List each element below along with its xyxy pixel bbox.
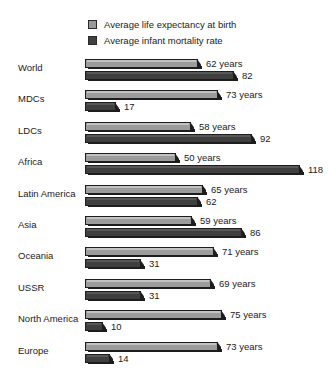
bar-body — [85, 342, 218, 351]
bar-value-label: 62 years — [206, 58, 242, 69]
bar-tip — [109, 354, 113, 364]
bar-tip — [217, 342, 221, 352]
bar-tip — [213, 247, 217, 257]
bar-value-label: 31 — [149, 290, 160, 301]
bar-body — [85, 185, 203, 194]
bar-tip — [115, 102, 119, 112]
chart-row: Africa50 years118 — [0, 153, 328, 181]
legend-label-life-expectancy: Average life expectancy at birth — [104, 19, 236, 30]
bar-value-label: 86 — [250, 227, 261, 238]
bar-value-label: 50 years — [184, 152, 220, 163]
bar-tip — [233, 71, 237, 81]
chart-row: World62 years82 — [0, 59, 328, 87]
chart-row: LDCs58 years92 — [0, 122, 328, 150]
bar-tip — [299, 165, 303, 175]
category-label-ldcs: LDCs — [18, 125, 42, 136]
bar-body — [85, 122, 191, 131]
bar-body — [85, 197, 198, 206]
bar-value-label: 73 years — [226, 341, 262, 352]
bar-tip — [197, 197, 201, 207]
bar-value-label: 17 — [124, 101, 135, 112]
chart-row: Europe73 years14 — [0, 342, 328, 370]
bar-tip — [210, 279, 214, 289]
bar-value-label: 71 years — [222, 246, 258, 257]
bar-body — [85, 279, 211, 288]
category-label-ussr: USSR — [18, 282, 44, 293]
bar-body — [85, 59, 198, 68]
bar-body — [85, 291, 141, 300]
bar-body — [85, 102, 116, 111]
bar-tip — [175, 153, 179, 163]
bar-tip — [140, 291, 144, 301]
legend-item-life-expectancy: Average life expectancy at birth — [88, 18, 236, 31]
legend-label-infant-mortality: Average infant mortality rate — [104, 35, 223, 46]
bar-tip — [217, 90, 221, 100]
bar-tip — [202, 185, 206, 195]
bar-tip — [140, 259, 144, 269]
bar-body — [85, 134, 252, 143]
bar-value-label: 65 years — [211, 184, 247, 195]
bar-tip — [251, 134, 255, 144]
bar-tip — [190, 122, 194, 132]
bar-value-label: 92 — [260, 133, 271, 144]
bar-tip — [197, 59, 201, 69]
category-label-world: World — [18, 62, 43, 73]
bar-body — [85, 247, 214, 256]
bar-body — [85, 259, 141, 268]
bar-value-label: 10 — [111, 321, 122, 332]
chart-legend: Average life expectancy at birth Average… — [88, 18, 236, 50]
bar-value-label: 59 years — [200, 215, 236, 226]
bar-value-label: 82 — [242, 70, 253, 81]
bar-tip — [221, 310, 225, 320]
category-label-asia: Asia — [18, 219, 36, 230]
chart-row: Oceania71 years31 — [0, 247, 328, 275]
chart-row: Asia59 years86 — [0, 216, 328, 244]
bar-body — [85, 153, 176, 162]
bar-value-label: 73 years — [226, 89, 262, 100]
bar-tip — [241, 228, 245, 238]
bar-body — [85, 216, 192, 225]
bar-body — [85, 90, 218, 99]
bar-body — [85, 354, 110, 363]
bar-value-label: 31 — [149, 258, 160, 269]
bar-value-label: 118 — [308, 164, 323, 175]
bar-body — [85, 310, 222, 319]
bar-body — [85, 322, 103, 331]
legend-swatch-dark-icon — [88, 36, 97, 45]
legend-swatch-light-icon — [88, 20, 97, 29]
category-label-mdcs: MDCs — [18, 93, 44, 104]
bar-value-label: 58 years — [199, 121, 235, 132]
bar-value-label: 69 years — [219, 278, 255, 289]
category-label-north-america: North America — [18, 313, 78, 324]
category-label-oceania: Oceania — [18, 250, 53, 261]
infant-mortality-life-expectancy-chart: Average life expectancy at birth Average… — [0, 0, 328, 375]
bar-body — [85, 165, 300, 174]
bar-body — [85, 71, 234, 80]
bar-tip — [191, 216, 195, 226]
chart-row: USSR69 years31 — [0, 279, 328, 307]
chart-row: Latin America65 years62 — [0, 185, 328, 213]
category-label-latin-america: Latin America — [18, 188, 76, 199]
legend-item-infant-mortality: Average infant mortality rate — [88, 34, 236, 47]
category-label-africa: Africa — [18, 156, 42, 167]
bar-tip — [102, 322, 106, 332]
bar-value-label: 14 — [118, 353, 129, 364]
bar-value-label: 62 — [206, 196, 217, 207]
bar-body — [85, 228, 242, 237]
bar-value-label: 75 years — [230, 309, 266, 320]
chart-row: North America75 years10 — [0, 310, 328, 338]
category-label-europe: Europe — [18, 345, 49, 356]
chart-row: MDCs73 years17 — [0, 90, 328, 118]
